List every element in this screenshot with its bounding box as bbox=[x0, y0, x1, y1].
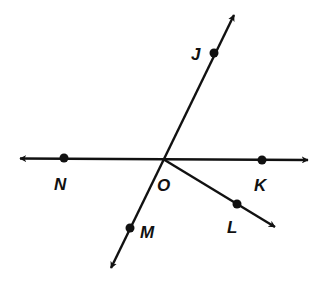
label-k: K bbox=[254, 176, 268, 195]
label-l: L bbox=[227, 218, 237, 237]
geometry-diagram: J N O K L M bbox=[0, 0, 325, 290]
point-k bbox=[258, 156, 267, 165]
point-l bbox=[233, 200, 242, 209]
point-n bbox=[60, 154, 69, 163]
label-n: N bbox=[54, 175, 67, 194]
label-m: M bbox=[140, 223, 155, 242]
label-j: J bbox=[191, 45, 201, 64]
point-m bbox=[126, 224, 135, 233]
label-o: O bbox=[157, 176, 170, 195]
point-j bbox=[210, 49, 219, 58]
